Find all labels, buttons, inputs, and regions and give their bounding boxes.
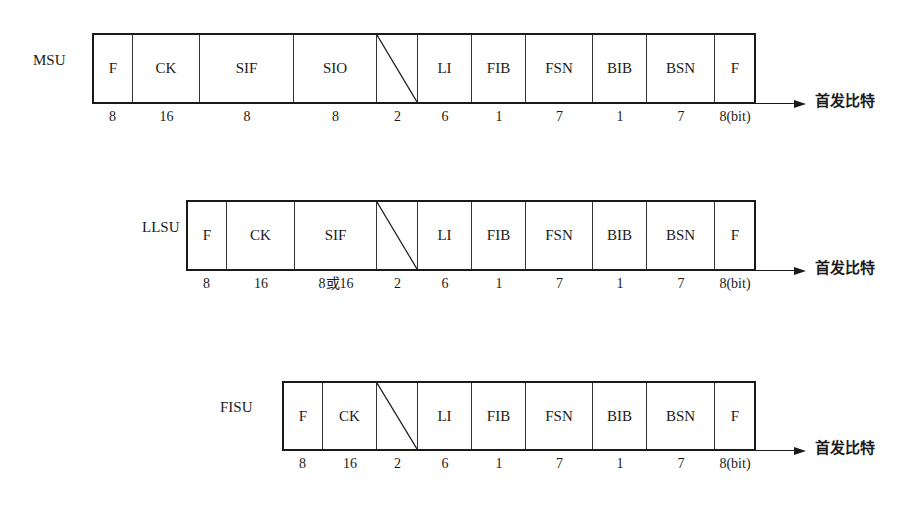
bit-width-label: 16 xyxy=(221,277,301,291)
field-label: SIF xyxy=(325,227,347,244)
field-label: F xyxy=(203,227,211,244)
field-label: FIB xyxy=(487,408,510,425)
field-label: FSN xyxy=(545,227,573,244)
field-label: LI xyxy=(437,227,451,244)
diagonal-slash-icon xyxy=(377,202,417,269)
field-cell-f: F xyxy=(188,202,227,269)
field-cell-ck: CK xyxy=(227,202,295,269)
frame-box: FCKSIFSIOLIFIBFSNBIBBSNF xyxy=(92,33,756,104)
arrow-head-icon xyxy=(794,100,806,108)
first-bit-label: 首发比特 xyxy=(815,94,875,109)
field-label: FSN xyxy=(545,60,573,77)
spare-field-cell xyxy=(377,202,418,269)
transmission-direction-arrow xyxy=(755,103,796,104)
field-cell-bib: BIB xyxy=(593,35,647,102)
field-cell-f: F xyxy=(715,383,755,449)
field-cell-fib: FIB xyxy=(472,35,526,102)
field-label: CK xyxy=(156,60,177,77)
field-cell-ck: CK xyxy=(323,383,377,449)
field-label: FIB xyxy=(487,60,510,77)
field-cell-bsn: BSN xyxy=(647,35,715,102)
frame-box: FCKLIFIBFSNBIBBSNF xyxy=(282,381,756,451)
field-label: CK xyxy=(339,408,360,425)
spare-field-cell xyxy=(377,383,418,449)
field-label: LI xyxy=(437,60,451,77)
field-cell-fib: FIB xyxy=(472,202,526,269)
field-cell-fib: FIB xyxy=(472,383,526,449)
field-cell-sif: SIF xyxy=(200,35,294,102)
bit-width-label: 8(bit) xyxy=(695,457,775,471)
arrow-head-icon xyxy=(794,447,806,455)
field-label: BIB xyxy=(607,227,632,244)
field-label: F xyxy=(731,408,739,425)
unit-name-label: LLSU xyxy=(142,220,180,235)
field-cell-bib: BIB xyxy=(593,202,647,269)
field-cell-bsn: BSN xyxy=(647,383,715,449)
field-label: CK xyxy=(250,227,271,244)
field-label: FIB xyxy=(487,227,510,244)
bit-width-label: 8 xyxy=(207,110,287,124)
bit-width-label: 8(bit) xyxy=(695,110,775,124)
field-cell-sio: SIO xyxy=(294,35,377,102)
first-bit-label: 首发比特 xyxy=(815,261,875,276)
diagonal-slash-icon xyxy=(377,35,417,102)
field-label: FSN xyxy=(545,408,573,425)
field-cell-f: F xyxy=(284,383,323,449)
field-cell-fsn: FSN xyxy=(526,202,593,269)
field-label: F xyxy=(299,408,307,425)
field-label: F xyxy=(731,60,739,77)
field-label: BSN xyxy=(666,60,695,77)
field-label: BSN xyxy=(666,408,695,425)
field-cell-fsn: FSN xyxy=(526,383,593,449)
field-label: BSN xyxy=(666,227,695,244)
field-label: F xyxy=(731,227,739,244)
field-label: SIO xyxy=(323,60,347,77)
field-cell-li: LI xyxy=(418,202,472,269)
bit-width-label: 16 xyxy=(127,110,207,124)
field-label: BIB xyxy=(607,408,632,425)
transmission-direction-arrow xyxy=(755,450,796,451)
field-label: BIB xyxy=(607,60,632,77)
field-label: LI xyxy=(437,408,451,425)
field-cell-li: LI xyxy=(418,383,472,449)
unit-name-label: FISU xyxy=(220,400,253,415)
field-cell-bsn: BSN xyxy=(647,202,715,269)
field-cell-ck: CK xyxy=(133,35,200,102)
bit-width-label: 8(bit) xyxy=(695,277,775,291)
unit-name-label: MSU xyxy=(33,53,66,68)
field-cell-fsn: FSN xyxy=(526,35,593,102)
arrow-head-icon xyxy=(794,267,806,275)
field-cell-f: F xyxy=(94,35,133,102)
field-cell-li: LI xyxy=(418,35,472,102)
field-cell-sif: SIF xyxy=(295,202,377,269)
signal-unit-format-diagram: MSUFCKSIFSIOLIFIBFSNBIBBSNF816882617178(… xyxy=(0,0,920,507)
field-cell-f: F xyxy=(715,35,755,102)
spare-field-cell xyxy=(377,35,418,102)
field-label: F xyxy=(109,60,117,77)
field-label: SIF xyxy=(236,60,258,77)
frame-box: FCKSIFLIFIBFSNBIBBSNF xyxy=(186,200,756,271)
diagonal-slash-icon xyxy=(377,383,417,449)
first-bit-label: 首发比特 xyxy=(815,441,875,456)
field-cell-f: F xyxy=(715,202,755,269)
field-cell-bib: BIB xyxy=(593,383,647,449)
transmission-direction-arrow xyxy=(755,270,796,271)
